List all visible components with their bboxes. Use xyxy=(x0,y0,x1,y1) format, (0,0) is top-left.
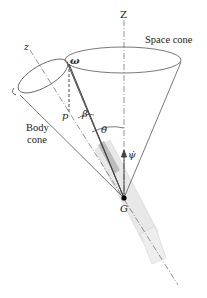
label-omega: ω xyxy=(70,56,80,66)
label-p: p xyxy=(62,111,68,121)
label-psi-dot: ψ̇ xyxy=(128,150,136,160)
rotation-arrows xyxy=(12,88,16,95)
label-Z-axis: Z xyxy=(120,10,127,20)
label-body-cone-line1: Body xyxy=(26,122,49,134)
label-G: G xyxy=(120,204,128,214)
label-theta: θ xyxy=(101,125,107,135)
label-z-axis: z xyxy=(24,43,29,52)
label-body-cone-line2: cone xyxy=(27,134,47,146)
precession-diagram: Z z Space cone Body cone ω p β θ ψ̇ G xyxy=(0,0,207,298)
center-of-mass-dot xyxy=(121,195,126,200)
label-beta: β xyxy=(82,109,88,119)
label-space-cone: Space cone xyxy=(145,34,193,46)
